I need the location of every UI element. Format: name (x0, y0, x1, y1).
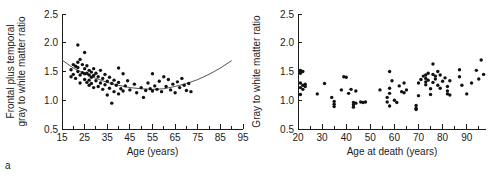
x-axis-title: Age at death (years) (347, 146, 438, 157)
data-point (354, 101, 357, 104)
data-point (171, 82, 174, 85)
data-point (74, 77, 77, 80)
x-tick-label: 65 (170, 132, 182, 143)
data-point (354, 89, 357, 92)
data-point (162, 75, 165, 78)
data-point (106, 80, 109, 83)
data-point (431, 62, 434, 65)
y-tick-label: 1.0 (44, 95, 58, 106)
panel-a-frontal-temporal-ratio: 0.51.01.52.02.5152535455565758595Age (ye… (0, 0, 250, 178)
data-point (458, 68, 461, 71)
y-tick-label: 2.5 (44, 9, 58, 20)
data-point (160, 90, 163, 93)
data-point (301, 70, 304, 73)
x-tick-label: 15 (56, 132, 68, 143)
x-tick-label: 20 (292, 132, 304, 143)
x-tick-label: 45 (124, 132, 136, 143)
data-point (81, 63, 84, 66)
panel-b-plot: 0.51.01.52.02.52030405060708090Age at de… (246, 0, 492, 178)
data-point (173, 91, 176, 94)
data-point (436, 70, 439, 73)
data-point (158, 80, 161, 83)
data-point (426, 72, 429, 75)
data-point (139, 86, 142, 89)
data-point (187, 82, 190, 85)
data-point (482, 73, 485, 76)
data-point (439, 86, 442, 89)
x-tick-label: 75 (192, 132, 204, 143)
panel-a-plot: 0.51.01.52.02.5152535455565758595Age (ye… (0, 0, 250, 178)
x-tick-label: 35 (102, 132, 114, 143)
data-point (470, 81, 473, 84)
data-point (69, 68, 72, 71)
data-point (347, 92, 350, 95)
data-point (128, 88, 131, 91)
data-point (83, 67, 86, 70)
data-point (110, 82, 113, 85)
data-point (144, 89, 147, 92)
x-tick-label: 55 (147, 132, 159, 143)
data-point (115, 84, 118, 87)
data-point (301, 88, 304, 91)
data-point (419, 78, 422, 81)
data-point (479, 58, 482, 61)
x-tick-label: 60 (389, 132, 401, 143)
data-point (135, 91, 138, 94)
data-point (299, 93, 302, 96)
data-point (477, 77, 480, 80)
panel-b-gray-white-ratio: 0.51.01.52.02.52030405060708090Age at de… (246, 0, 492, 178)
data-point (417, 81, 420, 84)
data-point (87, 78, 90, 81)
panel-a-label: a (5, 160, 11, 171)
y-axis-title-line-1: Frontal plus temporal (5, 25, 16, 119)
data-point (398, 84, 401, 87)
data-point (332, 105, 335, 108)
data-point (316, 92, 319, 95)
y-tick-label: 1.5 (44, 66, 58, 77)
data-point (436, 84, 439, 87)
data-point (402, 81, 405, 84)
data-point (429, 87, 432, 90)
x-tick-label: 30 (317, 132, 329, 143)
data-point (424, 83, 427, 86)
data-points (299, 58, 486, 111)
data-point (117, 66, 120, 69)
data-point (323, 82, 326, 85)
data-point (146, 81, 149, 84)
data-point (101, 88, 104, 91)
data-point (92, 86, 95, 89)
x-tick-label: 70 (413, 132, 425, 143)
x-tick-label: 40 (341, 132, 353, 143)
data-point (178, 86, 181, 89)
data-points (69, 43, 192, 104)
data-point (345, 76, 348, 79)
data-point (390, 79, 393, 82)
y-tick-label: 2.0 (44, 37, 58, 48)
data-point (475, 69, 478, 72)
data-point (92, 67, 95, 70)
data-point (97, 75, 100, 78)
data-point (364, 100, 367, 103)
data-point (108, 86, 111, 89)
data-point (388, 86, 391, 89)
data-point (121, 89, 124, 92)
data-point (439, 73, 442, 76)
x-tick-label: 80 (437, 132, 449, 143)
data-point (388, 104, 391, 107)
data-point (434, 77, 437, 80)
data-point (155, 88, 158, 91)
data-point (108, 76, 111, 79)
data-point (169, 88, 172, 91)
data-point (103, 83, 106, 86)
x-axis-title: Age (years) (127, 146, 179, 157)
x-tick-label: 25 (79, 132, 91, 143)
data-point (414, 108, 417, 111)
data-point (185, 89, 188, 92)
data-point (151, 89, 154, 92)
data-point (117, 92, 120, 95)
data-point (441, 80, 444, 83)
y-axis-title: Gray to white matter ratio (251, 15, 262, 128)
data-point (94, 72, 97, 75)
data-point (153, 84, 156, 87)
data-point (448, 93, 451, 96)
